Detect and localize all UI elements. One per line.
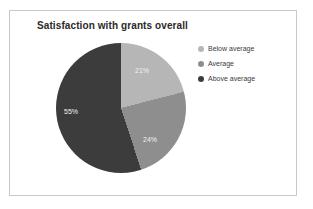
legend-swatch-icon-average	[198, 61, 204, 67]
chart-title: Satisfaction with grants overall	[10, 20, 215, 31]
chart-legend: Below average Average Above average	[198, 44, 294, 89]
chart-figure: Satisfaction with grants overall 21% 24%…	[9, 10, 297, 196]
legend-label-below-average: Below average	[208, 45, 254, 53]
legend-swatch-icon-above-average	[198, 76, 204, 82]
slice-label-below-average: 21%	[135, 67, 149, 74]
legend-label-average: Average	[208, 60, 234, 68]
legend-label-above-average: Above average	[208, 75, 255, 83]
slice-label-average: 24%	[143, 136, 157, 143]
legend-item-average: Average	[198, 59, 294, 69]
pie-chart: 21% 24% 55%	[50, 35, 192, 181]
slice-label-above-average: 55%	[64, 108, 78, 115]
legend-swatch-icon-below-average	[198, 46, 204, 52]
legend-item-below-average: Below average	[198, 44, 294, 54]
legend-item-above-average: Above average	[198, 74, 294, 84]
